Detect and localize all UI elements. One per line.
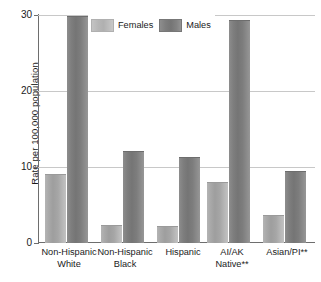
bar-females-asian-pi (263, 215, 284, 243)
cat-line-1: AI/AK (202, 247, 262, 259)
y-tick-label-0: 0 (26, 238, 32, 248)
bar-females-non-hispanic-white (45, 174, 66, 243)
bar-females-hispanic (157, 226, 178, 243)
males-swatch-icon (159, 19, 182, 32)
cat-line-2: Native** (202, 259, 262, 271)
legend-label-males: Males (186, 20, 211, 30)
bar-males-non-hispanic-black (123, 151, 144, 243)
y-tick-label-20: 20 (21, 86, 32, 96)
x-category-label-ai-ak-native: AI/AK Native** (202, 247, 262, 270)
bar-chart-figure: Rate per 100,000 population 30 20 10 0 (0, 0, 321, 282)
cat-line-2: Black (92, 259, 158, 271)
plot-area: 30 20 10 0 (38, 15, 315, 243)
cat-line-1: Non-Hispanic (92, 247, 158, 259)
bar-males-ai-ak-native (229, 20, 250, 243)
y-axis-line (38, 14, 39, 244)
tick-mark-0 (34, 243, 38, 244)
chart-legend: Females Males (88, 15, 215, 35)
tick-mark-10 (34, 167, 38, 168)
y-tick-label-30: 30 (21, 10, 32, 20)
y-tick-label-10: 10 (21, 162, 32, 172)
x-category-label-non-hispanic-black: Non-Hispanic Black (92, 247, 158, 270)
bar-females-ai-ak-native (207, 182, 228, 243)
cat-line-1: Asian/PI** (257, 247, 317, 259)
legend-label-females: Females (118, 20, 153, 30)
tick-mark-30 (34, 15, 38, 16)
tick-mark-20 (34, 91, 38, 92)
legend-item-males: Males (159, 19, 211, 32)
x-category-label-asian-pi: Asian/PI** (257, 247, 317, 259)
bar-males-non-hispanic-white (67, 16, 88, 243)
females-swatch-icon (91, 19, 114, 32)
bar-males-asian-pi (285, 171, 306, 243)
legend-item-females: Females (91, 19, 153, 32)
bar-females-non-hispanic-black (101, 225, 122, 243)
bar-males-hispanic (179, 157, 200, 243)
